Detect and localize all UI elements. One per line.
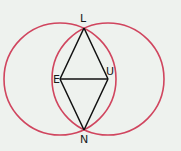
construction-diagram: L E U N <box>0 0 181 151</box>
label-n: N <box>80 133 88 146</box>
rhombus-segments <box>60 28 108 130</box>
label-e: E <box>53 73 60 86</box>
label-l: L <box>80 12 87 25</box>
label-u: U <box>106 65 114 78</box>
